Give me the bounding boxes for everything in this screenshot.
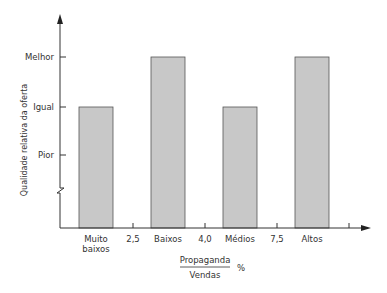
- x-axis-label-unit: %: [237, 263, 245, 273]
- x-axis-arrow-icon: [361, 225, 371, 231]
- x-boundary-label: 4,0: [198, 234, 212, 244]
- x-category-label: Médios: [225, 234, 256, 244]
- bar: [223, 107, 257, 228]
- x-category-label: Baixos: [154, 234, 182, 244]
- bar: [151, 57, 185, 228]
- x-axis-label-numerator: Propaganda: [180, 255, 231, 265]
- y-tick-label: Igual: [33, 102, 54, 112]
- y-tick-label: Melhor: [25, 52, 55, 62]
- bar: [79, 107, 113, 228]
- x-boundary-label: 7,5: [270, 234, 284, 244]
- x-boundary-label: 2,5: [126, 234, 140, 244]
- chart: Qualidade relativa da oferta PiorIgualMe…: [0, 0, 387, 293]
- x-category-label: baixos: [82, 244, 110, 254]
- x-category-label: Muito: [84, 234, 108, 244]
- y-axis-label: Qualidade relativa da oferta: [20, 84, 29, 197]
- y-axis-break-icon: [57, 183, 64, 228]
- x-category-label: Altos: [301, 234, 323, 244]
- x-axis-label-denominator: Vendas: [190, 270, 221, 280]
- bar: [295, 57, 329, 228]
- bars-group: [79, 57, 329, 228]
- y-axis-arrow-icon: [57, 14, 63, 24]
- y-tick-label: Pior: [38, 150, 55, 160]
